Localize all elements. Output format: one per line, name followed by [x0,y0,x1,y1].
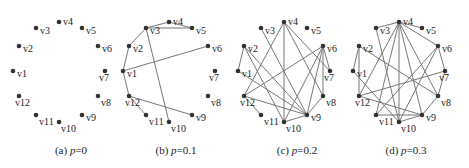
caption-b-prefix: (b) [155,144,171,156]
node-label-v9: v9 [426,112,436,123]
node-v4 [282,20,287,25]
edge-v4-v9 [399,22,422,115]
node-v9 [190,113,195,118]
node-v9 [80,113,85,118]
caption-d-value: =0.3 [407,144,427,156]
node-label-v8: v8 [211,97,221,108]
caption-a-value: =0 [75,144,87,156]
node-label-v3: v3 [40,25,50,36]
node-v6 [96,44,101,49]
caption-c-prefix: (c) [277,144,292,156]
edge-v6-v9 [307,46,323,115]
node-v3 [259,26,264,31]
node-v5 [305,26,310,31]
node-label-v8: v8 [101,97,111,108]
node-v6 [436,44,441,49]
node-label-v1: v1 [242,68,252,79]
node-v2 [357,44,362,49]
node-label-v1: v1 [17,68,27,79]
node-v8 [436,94,441,99]
node-label-v10: v10 [61,123,76,134]
node-label-v2: v2 [363,43,373,54]
caption-panel-c: (c) p=0.2 [277,144,317,156]
node-label-v11: v11 [379,116,394,127]
node-label-v3: v3 [150,25,160,36]
node-label-v1: v1 [357,68,367,79]
node-v4 [57,20,62,25]
node-v3 [34,26,39,31]
caption-c-value: =0.2 [297,144,317,156]
node-v2 [127,44,132,49]
caption-panel-a: (a) p=0 [55,144,87,156]
node-label-v4: v4 [288,16,298,27]
node-label-v7: v7 [99,72,109,83]
node-v11 [144,113,149,118]
caption-panel-d: (d) p=0.3 [385,144,426,156]
caption-a-prefix: (a) [55,144,70,156]
node-v2 [242,44,247,49]
node-v1 [11,69,16,74]
node-label-v6: v6 [442,43,452,54]
node-label-v10: v10 [401,123,416,134]
node-v5 [420,26,425,31]
node-label-v12: v12 [355,97,370,108]
node-v11 [259,113,264,118]
edge-v3-v10 [146,28,169,122]
node-label-v5: v5 [311,25,321,36]
node-label-v8: v8 [441,97,451,108]
node-v3 [144,26,149,31]
node-v3 [374,26,379,31]
node-label-v2: v2 [23,43,33,54]
node-label-v5: v5 [196,25,206,36]
node-v11 [34,113,39,118]
panel-b-graph: v1v2v3v4v5v6v7v8v9v10v11v12 [121,16,222,134]
node-label-v12: v12 [15,97,30,108]
node-label-v7: v7 [324,72,334,83]
node-label-v8: v8 [326,97,336,108]
caption-d-prefix: (d) [385,144,401,156]
edge-v3-v10 [376,28,399,122]
node-v1 [121,69,126,74]
node-label-v9: v9 [311,112,321,123]
panel-a-graph: v1v2v3v4v5v6v7v8v9v10v11v12 [11,16,112,134]
node-label-v6: v6 [327,43,337,54]
node-v4 [167,20,172,25]
node-v6 [206,44,211,49]
node-label-v3: v3 [265,25,275,36]
node-label-v11: v11 [149,116,164,127]
node-label-v3: v3 [380,25,390,36]
node-label-v12: v12 [240,97,255,108]
node-v9 [420,113,425,118]
caption-b-value: =0.1 [177,144,197,156]
node-v8 [206,94,211,99]
node-v5 [190,26,195,31]
node-label-v7: v7 [439,72,449,83]
caption-panel-b: (b) p=0.1 [155,144,196,156]
node-label-v11: v11 [264,116,279,127]
node-v6 [321,44,326,49]
node-label-v11: v11 [39,116,54,127]
node-label-v12: v12 [125,97,140,108]
node-label-v6: v6 [212,43,222,54]
node-v5 [80,26,85,31]
node-label-v4: v4 [173,16,183,27]
node-v1 [236,69,241,74]
network-graphs: v1v2v3v4v5v6v7v8v9v10v11v12 v1v2v3v4v5v6… [0,0,469,168]
node-label-v2: v2 [248,43,258,54]
node-v11 [374,113,379,118]
node-label-v9: v9 [86,112,96,123]
panel-d-graph: v1v2v3v4v5v6v7v8v9v10v11v12 [351,16,452,134]
node-v4 [397,20,402,25]
node-label-v5: v5 [86,25,96,36]
node-label-v1: v1 [127,68,137,79]
node-v2 [17,44,22,49]
node-label-v5: v5 [426,25,436,36]
panel-c-graph: v1v2v3v4v5v6v7v8v9v10v11v12 [236,16,337,134]
node-label-v10: v10 [286,123,301,134]
node-label-v4: v4 [63,16,73,27]
node-v1 [351,69,356,74]
node-v9 [305,113,310,118]
node-label-v9: v9 [196,112,206,123]
node-label-v2: v2 [133,43,143,54]
watts-strogatz-figure: v1v2v3v4v5v6v7v8v9v10v11v12 v1v2v3v4v5v6… [0,0,469,168]
